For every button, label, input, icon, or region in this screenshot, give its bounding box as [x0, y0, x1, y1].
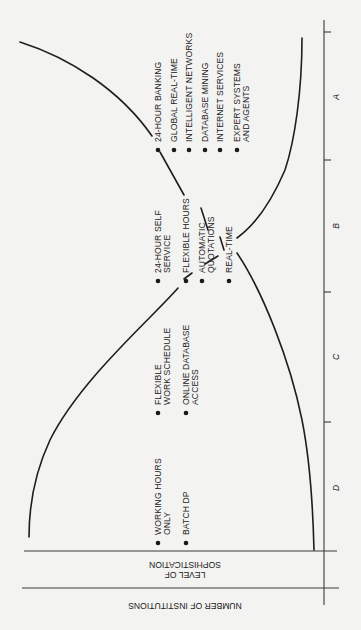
sophistication-curve-segment — [160, 152, 184, 195]
stage-item: FLEXIBLE HOURS — [181, 198, 191, 283]
adoption-diagram: ABCD LEVEL OF SOPHISTICATION NUMBER OF I… — [0, 0, 361, 630]
sophistication-curve-segment — [20, 42, 152, 136]
bullet-icon — [156, 411, 161, 416]
bullet-icon — [200, 279, 205, 284]
bullet-icon — [235, 148, 240, 153]
stage-group-a: 24-HOUR BANKINGGLOBAL REAL-TIMEINTELLIGE… — [153, 33, 251, 153]
bullet-icon — [184, 541, 189, 546]
stage-item: 24-HOUR SELFSERVICE — [153, 210, 172, 283]
stage-item: FLEXIBLEWORK SCHEDULE — [153, 328, 172, 416]
stage-item-label: GLOBAL REAL-TIME — [169, 58, 179, 142]
stage-label-a: A — [331, 94, 341, 101]
stage-item-label: WORKING HOURSONLY — [153, 458, 172, 535]
stage-item-label: 24-HOUR BANKING — [153, 61, 163, 142]
stage-labels: ABCD — [331, 94, 341, 491]
bullet-icon — [184, 411, 189, 416]
bullet-icon — [203, 148, 208, 153]
stage-item-label: AUTOMATICQUOTATIONS — [197, 216, 216, 273]
bullet-icon — [172, 148, 177, 153]
stage-item: DATABASE MINING — [200, 62, 210, 152]
stage-label-c: C — [331, 353, 341, 360]
level-axis-title-line1: LEVEL OF — [165, 570, 206, 580]
stage-item: EXPERT SYSTEMSAND AGENTS — [232, 63, 251, 152]
bullet-icon — [184, 279, 189, 284]
bullet-icon — [156, 279, 161, 284]
stage-item: 24-HOUR BANKING — [153, 61, 163, 152]
stage-item-label: REAL-TIME — [224, 226, 234, 273]
stage-item-groups: 24-HOUR BANKINGGLOBAL REAL-TIMEINTELLIGE… — [153, 33, 251, 546]
level-axis-title: LEVEL OF SOPHISTICATION — [149, 560, 221, 580]
stage-item-label: ONLINE DATABASEACCESS — [181, 324, 200, 405]
stage-item-label: INTELLIGENT NETWORKS — [184, 33, 194, 142]
bullet-icon — [156, 148, 161, 153]
stage-label-b: B — [331, 223, 341, 229]
stage-item-label: FLEXIBLEWORK SCHEDULE — [153, 328, 172, 405]
stage-item: GLOBAL REAL-TIME — [169, 58, 179, 152]
stage-item: ONLINE DATABASEACCESS — [181, 324, 200, 415]
stage-item-label: INTERNET SERVICES — [215, 52, 225, 142]
stage-item-label: FLEXIBLE HOURS — [181, 198, 191, 273]
stage-item: INTELLIGENT NETWORKS — [184, 33, 194, 153]
bullet-icon — [218, 148, 223, 153]
bullet-icon — [187, 148, 192, 153]
stage-item: BATCH DP — [181, 491, 191, 545]
stage-item-label: DATABASE MINING — [200, 62, 210, 142]
stage-ticks — [324, 32, 331, 422]
number-axis-title: NUMBER OF INSTITUTIONS — [128, 601, 242, 611]
stage-item: AUTOMATICQUOTATIONS — [197, 216, 216, 283]
number-axis-title-text: NUMBER OF INSTITUTIONS — [128, 601, 242, 611]
stage-item: REAL-TIME — [224, 226, 234, 283]
stage-item: INTERNET SERVICES — [215, 52, 225, 153]
stage-item: WORKING HOURSONLY — [153, 458, 172, 545]
stage-group-d: WORKING HOURSONLYBATCH DP — [153, 458, 191, 545]
bullet-icon — [156, 541, 161, 546]
stage-group-c: FLEXIBLEWORK SCHEDULEONLINE DATABASEACCE… — [153, 324, 200, 415]
institutions-curve-segment — [237, 253, 314, 550]
stage-item-label: EXPERT SYSTEMSAND AGENTS — [232, 63, 251, 142]
level-axis-title-line2: SOPHISTICATION — [149, 560, 221, 570]
stage-item-label: 24-HOUR SELFSERVICE — [153, 210, 172, 273]
stage-label-d: D — [331, 485, 341, 491]
bullet-icon — [227, 279, 232, 284]
stage-item-label: BATCH DP — [181, 491, 191, 535]
